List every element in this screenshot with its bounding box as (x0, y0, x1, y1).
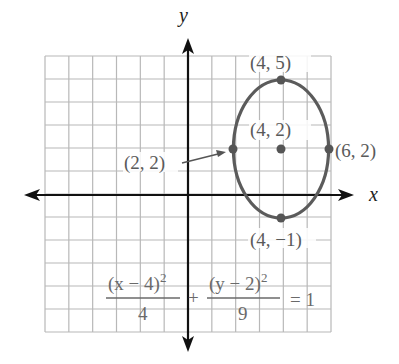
point-right-covertex (325, 145, 334, 154)
eq-denominator-1: 4 (138, 303, 148, 324)
label-bottom-vertex: (4, −1) (250, 229, 302, 251)
point-left-covertex (229, 145, 238, 154)
eq-numerator-1: (x − 4)2 (108, 270, 166, 295)
pointer-arrowhead-icon (216, 150, 226, 157)
eq-rhs: = 1 (290, 289, 315, 310)
ellipse-graph: x y (4, 5) (4, 2) (6, 2) (2, 2) (4, −1) … (0, 0, 399, 364)
label-left-covertex: (2, 2) (124, 152, 165, 174)
x-axis-label: x (368, 183, 378, 205)
label-top-vertex: (4, 5) (250, 52, 291, 74)
label-center: (4, 2) (250, 119, 291, 141)
point-top-vertex (277, 76, 286, 85)
points (229, 76, 334, 223)
eq-numerator-2: (y − 2)2 (209, 270, 267, 295)
point-bottom-vertex (277, 214, 286, 223)
eq-plus: + (188, 287, 199, 308)
y-axis-label: y (177, 4, 188, 27)
point-center (277, 145, 286, 154)
eq-denominator-2: 9 (238, 303, 248, 324)
label-right-covertex: (6, 2) (335, 140, 376, 162)
plot-canvas: x y (4, 5) (4, 2) (6, 2) (2, 2) (4, −1) … (0, 0, 399, 364)
